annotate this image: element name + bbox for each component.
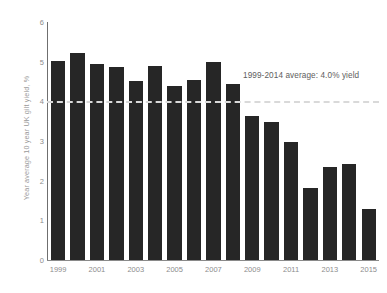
x-axis-line — [47, 260, 379, 261]
x-tick-label: 2011 — [283, 266, 299, 274]
y-tick-label: 3 — [26, 138, 44, 146]
bar — [70, 53, 84, 260]
bar — [187, 80, 201, 260]
y-tick-label: 6 — [26, 19, 44, 27]
bar — [129, 81, 143, 260]
bar — [323, 167, 337, 259]
bar — [284, 142, 298, 260]
bar — [148, 66, 162, 259]
bar — [167, 86, 181, 260]
bar — [206, 62, 220, 260]
gilt-yield-bar-chart: Year average 10 year UK gilt yield, % 01… — [0, 0, 387, 293]
x-tick-label: 2015 — [360, 266, 377, 274]
average-annotation-label: 1999-2014 average: 4.0% yield — [243, 71, 359, 80]
bar — [226, 84, 240, 260]
x-tick-label: 2005 — [166, 266, 183, 274]
y-tick-label: 5 — [26, 59, 44, 67]
bar-series — [48, 22, 378, 260]
average-reference-line — [47, 101, 379, 103]
x-tick-label: 2001 — [89, 266, 106, 274]
y-tick-label: 2 — [26, 178, 44, 186]
bar — [51, 61, 65, 260]
bar — [264, 122, 278, 260]
bar — [109, 67, 123, 260]
bar — [342, 164, 356, 260]
x-tick-label: 2009 — [244, 266, 261, 274]
x-tick-label: 2007 — [205, 266, 222, 274]
y-tick-label: 4 — [26, 98, 44, 106]
bar — [303, 188, 317, 260]
x-tick-label: 1999 — [50, 266, 67, 274]
y-axis-ticks: 0123456 — [18, 0, 44, 293]
x-tick-label: 2003 — [127, 266, 144, 274]
bar — [245, 116, 259, 260]
x-tick-label: 2013 — [322, 266, 339, 274]
y-tick-label: 0 — [26, 257, 44, 265]
x-axis-ticks: 199920012003200520072009201120132015 — [47, 266, 379, 282]
bar — [362, 209, 376, 260]
plot-area: 1999-2014 average: 4.0% yield — [47, 22, 379, 261]
bar — [90, 64, 104, 260]
y-tick-label: 1 — [26, 217, 44, 225]
